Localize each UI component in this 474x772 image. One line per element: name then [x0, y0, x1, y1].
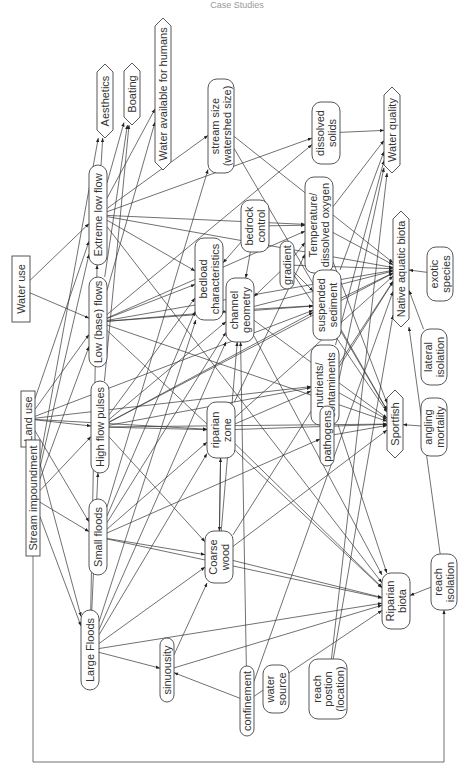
node-label: sinuousity [161, 645, 173, 694]
edge-nutrients_contaminents-to-riparian_biota [338, 425, 387, 573]
edge-stream_impoundment-to-small_floods [40, 502, 89, 531]
node-aesthetics: Aesthetics [97, 64, 113, 138]
node-low-base-flows: Low (base) flows [89, 277, 107, 367]
edge-temperature_do-to-native_aquatic_biota [333, 233, 393, 265]
edge-reach_position-to-water_quality [331, 173, 387, 659]
node-dissolved-solids: dissolvedsolids [312, 102, 340, 164]
node-stream-size: stream size(watershed size) [208, 79, 234, 173]
edge-lateral_isolation-to-native_aquatic_biota [409, 290, 424, 329]
node-bedrock-control: bedrockcontrol [241, 200, 269, 252]
node-label: Aesthetics [99, 75, 111, 126]
edge-confinement-to-sinuousity [174, 673, 240, 699]
edge-land_use-to-extreme_low_flow [35, 241, 89, 398]
node-label: High flow pulses [94, 386, 106, 467]
node-water-quality: Water quality [384, 87, 400, 173]
node-temperature-do: Temperature/dissolved oxygen [305, 177, 333, 273]
edge-exotic_species-to-native_aquatic_biota [409, 270, 427, 272]
node-label: Small floods [92, 507, 104, 567]
node-gradient: gradient [280, 241, 294, 289]
node-boating: Boating [124, 63, 140, 125]
edge-high_flow_pulses-to-channel_geometry [109, 322, 226, 420]
edge-coarse_wood-to-sportfish [233, 430, 387, 546]
node-water-use: Water use [12, 256, 30, 322]
edge-sinuousity-to-coarse_wood [174, 583, 207, 655]
node-pathogens: pathogens [320, 406, 334, 466]
node-high-flow-pulses: High flow pulses [91, 381, 109, 473]
edge-channel_geometry-to-suspended_sediment [254, 306, 313, 309]
edge-nutrients_contaminents-to-native_aquatic_biota [339, 281, 393, 363]
node-label: Land use [22, 396, 34, 441]
edge-extreme_low_flow-to-bedload [107, 220, 195, 271]
node-riparian-biota: Riparianbiota [382, 573, 410, 629]
edge-confinement-to-channel_geometry [241, 342, 247, 666]
node-label: Low (base) flows [92, 280, 104, 363]
edge-small_floods-to-bedload [107, 312, 195, 517]
node-native-aquatic-biota: Native aquatic biota [393, 211, 409, 327]
node-small-floods: Small floods [89, 499, 107, 575]
edge-large_floods-to-bedload [99, 320, 196, 622]
edge-gradient-to-suspended_sediment [294, 272, 313, 291]
edge-coarse_wood-to-riparian_biota [233, 560, 382, 597]
node-reach-position: reachpostion(location) [309, 659, 347, 719]
node-riparian-zone: riparianzone [207, 402, 235, 458]
edge-gradient-to-temperature_do [294, 243, 305, 257]
edge-riparian_zone-to-riparian_biota [235, 444, 382, 588]
node-label: Large Floods [84, 617, 96, 682]
node-coarse-wood: Coarsewood [205, 531, 233, 583]
edge-bedrock_control-to-bedload [223, 242, 241, 263]
node-sinuousity: sinuousity [160, 638, 174, 702]
node-label: lateralisolation [422, 337, 446, 377]
node-sportfish: Sportfish [387, 390, 403, 458]
node-label: Native aquatic biota [395, 220, 407, 317]
edge-small_floods-to-riparian_zone [107, 442, 207, 529]
node-label: Stream impoundment [27, 445, 39, 550]
node-extreme-low-flow: Extreme low flow [89, 165, 107, 265]
edge-extreme_low_flow-to-aesthetics [101, 138, 103, 165]
edge-extreme_low_flow-to-temperature_do [107, 215, 305, 224]
node-label: channelgeometry [228, 287, 252, 333]
node-confinement: confinement [240, 666, 254, 736]
edge-nutrients_contaminents-to-water_quality [336, 160, 384, 345]
node-label: confinement [241, 671, 253, 731]
node-label: Boating [126, 75, 138, 112]
node-label: anglingmortality [422, 406, 446, 448]
node-channel-geometry: channelgeometry [226, 278, 254, 342]
node-label: pathogens [321, 410, 333, 462]
edge-large_floods-to-riparian_biota [99, 603, 382, 648]
node-label: Water use [15, 264, 27, 314]
node-bedload: bedloadcharacteristics [195, 238, 223, 320]
edge-bedrock_control-to-temperature_do [269, 225, 305, 226]
node-stream-impoundment: Stream impoundment [26, 440, 40, 556]
node-label: suspendedsediment [315, 278, 339, 332]
edge-water_use-to-low_base_flows [30, 293, 89, 318]
node-label: bedrockcontrol [243, 206, 267, 246]
edge-temperature_do-to-water_quality [333, 140, 384, 206]
node-suspended-sediment: suspendedsediment [313, 270, 341, 340]
edge-low_base_flows-to-bedload [107, 284, 195, 318]
node-lateral-isolation: lateralisolation [421, 329, 447, 385]
node-label: Temperature/dissolved oxygen [307, 183, 331, 267]
causal-diagram: Water useLand useStream impoundmentExtre… [0, 0, 474, 772]
node-label: Sportfish [389, 402, 401, 445]
edge-stream_impoundment-to-extreme_low_flow [40, 254, 89, 467]
edge-large_floods-to-sinuousity [99, 652, 160, 668]
edge-low_base_flows-to-water_available [107, 122, 155, 290]
node-exotic-species: exoticspecies [427, 247, 453, 301]
node-label: Coarsewood [207, 539, 231, 574]
node-land-use: Land use [21, 391, 35, 447]
edge-large_floods-to-coarse_wood [99, 567, 205, 643]
edge-water_use-to-extreme_low_flow [30, 224, 89, 281]
node-reach-isolation: reachisolation [431, 554, 457, 610]
edge-land_use-to-large_floods [35, 445, 81, 616]
edge-pathogens-to-sportfish [334, 425, 387, 434]
node-label: Extreme low flow [92, 173, 104, 256]
node-water-available: Water available for humans [155, 18, 171, 170]
node-label: Water quality [386, 98, 398, 162]
edge-reach_isolation-to-riparian_biota [410, 587, 431, 595]
node-label: watersource [264, 672, 288, 705]
node-label: Water available for humans [157, 27, 169, 161]
edge-angling_mortality-to-sportfish [403, 425, 421, 426]
node-label: gradient [281, 245, 293, 285]
edge-gradient-to-channel_geometry [254, 272, 280, 297]
edge-low_base_flows-to-boating [105, 125, 128, 277]
